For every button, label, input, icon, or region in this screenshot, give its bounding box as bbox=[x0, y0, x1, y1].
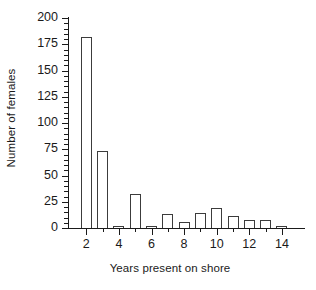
bar bbox=[146, 226, 157, 228]
bar bbox=[81, 37, 92, 228]
y-tick-label: 125 bbox=[12, 89, 58, 103]
y-tick-minor bbox=[64, 134, 69, 135]
y-tick-minor bbox=[64, 23, 69, 24]
x-tick-label: 12 bbox=[234, 237, 264, 251]
x-tick-minor bbox=[266, 229, 267, 232]
y-tick-major bbox=[62, 228, 69, 229]
y-tick-label: 150 bbox=[12, 63, 58, 77]
y-tick-minor bbox=[64, 86, 69, 87]
y-tick-minor bbox=[64, 165, 69, 166]
bar bbox=[113, 226, 124, 228]
y-tick-minor bbox=[64, 92, 69, 93]
chart-figure: Number of females 0255075100125150175200… bbox=[0, 0, 316, 290]
x-tick-label: 8 bbox=[169, 237, 199, 251]
x-tick-major bbox=[152, 229, 153, 235]
x-tick-minor bbox=[135, 229, 136, 232]
x-tick-major bbox=[184, 229, 185, 235]
x-tick-minor bbox=[103, 229, 104, 232]
y-tick-minor bbox=[64, 218, 69, 219]
y-tick-minor bbox=[64, 144, 69, 145]
x-tick-major bbox=[249, 229, 250, 235]
x-tick-major bbox=[217, 229, 218, 235]
bar bbox=[195, 213, 206, 228]
y-tick-minor bbox=[64, 118, 69, 119]
y-tick-minor bbox=[64, 223, 69, 224]
x-tick-minor bbox=[168, 229, 169, 232]
y-tick-minor bbox=[64, 55, 69, 56]
x-tick-major bbox=[86, 229, 87, 235]
y-tick-minor bbox=[64, 155, 69, 156]
y-tick-minor bbox=[64, 76, 69, 77]
y-tick-major bbox=[62, 97, 69, 98]
y-tick-minor bbox=[64, 170, 69, 171]
x-tick-minor bbox=[233, 229, 234, 232]
y-tick-minor bbox=[64, 102, 69, 103]
y-tick-minor bbox=[64, 39, 69, 40]
y-tick-minor bbox=[64, 65, 69, 66]
x-tick-label: 2 bbox=[71, 237, 101, 251]
y-tick-minor bbox=[64, 212, 69, 213]
y-tick-label: 100 bbox=[12, 115, 58, 129]
bar bbox=[276, 226, 287, 228]
bar bbox=[244, 220, 255, 228]
y-tick-major bbox=[62, 44, 69, 45]
bar bbox=[162, 214, 173, 228]
bar bbox=[97, 151, 108, 228]
y-tick-minor bbox=[64, 34, 69, 35]
y-tick-minor bbox=[64, 60, 69, 61]
y-tick-major bbox=[62, 149, 69, 150]
x-tick-major bbox=[119, 229, 120, 235]
y-tick-minor bbox=[64, 107, 69, 108]
bar bbox=[130, 194, 141, 228]
x-tick-label: 14 bbox=[267, 237, 297, 251]
y-tick-minor bbox=[64, 160, 69, 161]
bar bbox=[211, 208, 222, 228]
y-tick-minor bbox=[64, 191, 69, 192]
y-tick-label: 0 bbox=[12, 220, 58, 234]
y-tick-minor bbox=[64, 81, 69, 82]
x-tick-label: 10 bbox=[202, 237, 232, 251]
x-tick-minor bbox=[200, 229, 201, 232]
y-tick-major bbox=[62, 176, 69, 177]
bar bbox=[228, 216, 239, 228]
bar bbox=[260, 220, 271, 228]
y-tick-label: 175 bbox=[12, 36, 58, 50]
y-tick-major bbox=[62, 123, 69, 124]
y-tick-minor bbox=[64, 181, 69, 182]
y-tick-minor bbox=[64, 113, 69, 114]
y-tick-label: 200 bbox=[12, 10, 58, 24]
y-tick-major bbox=[62, 18, 69, 19]
y-tick-label: 50 bbox=[12, 168, 58, 182]
y-tick-minor bbox=[64, 29, 69, 30]
x-tick-major bbox=[282, 229, 283, 235]
x-axis-title: Years present on shore bbox=[40, 262, 300, 274]
x-tick-label: 6 bbox=[137, 237, 167, 251]
y-tick-minor bbox=[64, 186, 69, 187]
y-tick-major bbox=[62, 71, 69, 72]
y-tick-minor bbox=[64, 50, 69, 51]
y-tick-minor bbox=[64, 139, 69, 140]
y-tick-label: 25 bbox=[12, 194, 58, 208]
y-tick-minor bbox=[64, 207, 69, 208]
y-tick-minor bbox=[64, 197, 69, 198]
bar bbox=[179, 222, 190, 228]
y-tick-minor bbox=[64, 128, 69, 129]
y-tick-major bbox=[62, 202, 69, 203]
x-tick-label: 4 bbox=[104, 237, 134, 251]
plot-area: 0255075100125150175200 2468101214 bbox=[0, 0, 316, 290]
y-tick-label: 75 bbox=[12, 141, 58, 155]
